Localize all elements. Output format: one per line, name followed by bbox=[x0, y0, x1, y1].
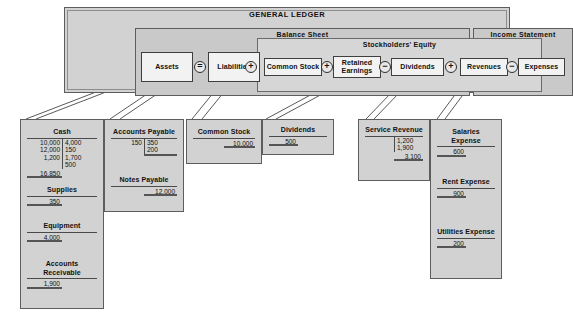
debit-column bbox=[365, 137, 394, 152]
ledger-chip-common-stock[interactable]: Common Stock bbox=[264, 58, 322, 76]
t-account-body: 150 350200 bbox=[111, 138, 177, 154]
t-account-title: Utilities Expense bbox=[437, 228, 495, 237]
balance-rule bbox=[27, 204, 62, 206]
amount: 1,200 bbox=[397, 137, 423, 145]
amount: 350 bbox=[147, 139, 177, 147]
t-account-body bbox=[27, 232, 97, 233]
t-account-title: Dividends bbox=[269, 126, 327, 135]
t-account-utilities-expense: Utilities Expense200 bbox=[437, 228, 495, 247]
service-revenue-column-card: Service Revenue 1,2001,9003,100 bbox=[358, 119, 430, 181]
balance-rule bbox=[437, 246, 466, 248]
operator-symbol: + bbox=[324, 62, 329, 71]
credit-column: 1,2001,900 bbox=[394, 137, 423, 152]
amount: 1,700 bbox=[65, 154, 97, 162]
amount: 1,900 bbox=[397, 144, 423, 152]
operator-symbol: − bbox=[509, 62, 514, 71]
t-account-title: Notes Payable bbox=[111, 176, 177, 185]
balance-rule bbox=[437, 196, 466, 198]
operator-equals-assets-liabilities: = bbox=[194, 61, 206, 73]
amount: 10,000 bbox=[27, 139, 60, 147]
t-account-common-stock: Common Stock10,000 bbox=[193, 128, 255, 147]
amount bbox=[27, 161, 60, 169]
t-account-service-revenue: Service Revenue 1,2001,9003,100 bbox=[365, 126, 423, 160]
t-account-body bbox=[193, 138, 255, 139]
t-account-body bbox=[269, 136, 327, 137]
stockholders-equity-label: Stockholders' Equity bbox=[258, 41, 541, 48]
balance-rule bbox=[144, 154, 177, 156]
balance-sheet-title: Balance Sheet bbox=[136, 31, 469, 38]
t-account-rent-expense: Rent Expense900 bbox=[437, 178, 495, 197]
operator-minus-retained-dividends: − bbox=[379, 61, 391, 73]
t-account-salaries-expense: Salaries Expense600 bbox=[437, 128, 495, 156]
balance-rule bbox=[27, 287, 62, 289]
amount: 4,000 bbox=[65, 139, 97, 147]
t-account-divider bbox=[394, 137, 395, 152]
balance-rule bbox=[27, 240, 62, 242]
operator-minus-revenues-expenses: − bbox=[506, 61, 518, 73]
t-account-balance-row: 350 bbox=[27, 198, 97, 206]
general-ledger-panel: GENERAL LEDGER Balance Sheet Income Stat… bbox=[64, 7, 510, 93]
operator-symbol: = bbox=[197, 62, 202, 71]
ledger-chip-assets[interactable]: Assets bbox=[141, 52, 193, 82]
t-account-title: Service Revenue bbox=[365, 126, 423, 135]
amount: 12,000 bbox=[27, 146, 60, 154]
general-ledger-title: GENERAL LEDGER bbox=[65, 10, 509, 19]
amount: 500 bbox=[65, 161, 97, 169]
balance-rule bbox=[437, 155, 466, 157]
t-account-body bbox=[437, 146, 495, 147]
ledger-chip-common-stock-label: Common Stock bbox=[267, 63, 320, 72]
amount bbox=[365, 144, 392, 152]
operator-symbol: + bbox=[448, 62, 453, 71]
t-account-title: Salaries Expense bbox=[437, 128, 495, 145]
balance-rule bbox=[224, 146, 255, 148]
debit-column: 150 bbox=[111, 139, 144, 154]
ledger-chip-dividends[interactable]: Dividends bbox=[391, 58, 444, 76]
t-account-accounts-payable: Accounts Payable150 350200 bbox=[111, 128, 177, 155]
t-account-body bbox=[437, 238, 495, 239]
t-account-title: Accounts Payable bbox=[111, 128, 177, 137]
ledger-chip-expenses-label: Expenses bbox=[525, 63, 559, 72]
expenses-column-card: Salaries Expense600Rent Expense900Utilit… bbox=[430, 119, 502, 279]
t-account-title: Rent Expense bbox=[437, 178, 495, 187]
dividends-column-card: Dividends500 bbox=[262, 119, 334, 155]
amount: 1,200 bbox=[27, 154, 60, 162]
credit-column: 4,0001501,700500 bbox=[62, 139, 97, 169]
operator-plus-commonstock-retained: + bbox=[321, 61, 333, 73]
t-account-divider bbox=[144, 139, 145, 154]
t-account-body bbox=[27, 196, 97, 197]
balance-rule bbox=[269, 144, 298, 146]
ledger-chip-expenses[interactable]: Expenses bbox=[518, 58, 565, 76]
operator-symbol: − bbox=[382, 62, 387, 71]
t-account-balance-row: 4,000 bbox=[27, 234, 97, 242]
t-account-cash: Cash10,00012,0001,200 4,0001501,70050016… bbox=[27, 128, 97, 177]
ledger-chip-retained-earnings-label: Retained Earnings bbox=[334, 59, 380, 76]
t-account-balance-row: 900 bbox=[437, 190, 495, 198]
ledger-chip-assets-label: Assets bbox=[155, 63, 179, 72]
t-account-title: Common Stock bbox=[193, 128, 255, 137]
t-account-supplies: Supplies350 bbox=[27, 186, 97, 205]
ledger-chip-revenues-label: Revenues bbox=[467, 63, 501, 72]
credit-column: 350200 bbox=[144, 139, 177, 154]
t-account-balance-row: 12,000 bbox=[111, 188, 177, 196]
t-account-balance-row: 1,900 bbox=[27, 280, 97, 288]
t-account-title: Accounts Receivable bbox=[27, 260, 97, 277]
ledger-chip-dividends-label: Dividends bbox=[400, 63, 434, 72]
amount bbox=[111, 146, 142, 154]
t-account-balance-row: 3,100 bbox=[365, 153, 423, 161]
t-account-body bbox=[27, 278, 97, 279]
t-account-dividends: Dividends500 bbox=[269, 126, 327, 145]
operator-plus-liabilities-equity: + bbox=[245, 61, 257, 73]
t-account-equipment: Equipment4,000 bbox=[27, 222, 97, 241]
amount: 150 bbox=[65, 146, 97, 154]
ledger-chip-revenues[interactable]: Revenues bbox=[460, 58, 508, 76]
ledger-chip-retained-earnings[interactable]: Retained Earnings bbox=[333, 56, 381, 78]
t-account-body: 1,2001,900 bbox=[365, 136, 423, 152]
balance-rule bbox=[394, 159, 423, 161]
common-stock-column-card: Common Stock10,000 bbox=[186, 119, 262, 164]
t-account-balance-row: 600 bbox=[437, 148, 495, 156]
t-account-divider bbox=[62, 139, 63, 169]
t-account-title: Cash bbox=[27, 128, 97, 137]
t-account-notes-payable: Notes Payable12,000 bbox=[111, 176, 177, 195]
balance-rule bbox=[27, 176, 62, 178]
